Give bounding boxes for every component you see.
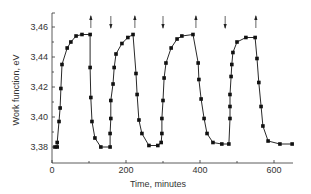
- data-point: [120, 42, 124, 46]
- data-point: [290, 142, 294, 146]
- data-point: [202, 117, 206, 121]
- data-point: [199, 97, 203, 101]
- data-point: [156, 144, 160, 148]
- data-point: [59, 87, 63, 91]
- data-point: [231, 51, 235, 55]
- data-point: [228, 105, 232, 109]
- data-point: [180, 34, 184, 38]
- work-function-chart: 02004006003,383,403,423,443,46 Time, min…: [0, 0, 311, 194]
- data-point: [278, 142, 282, 146]
- data-point: [109, 117, 113, 121]
- data-point: [229, 75, 233, 79]
- y-tick-label: 3,42: [30, 82, 48, 92]
- data-point: [266, 139, 270, 143]
- tick-labels: 02004006003,383,403,423,443,46: [30, 22, 281, 175]
- x-tick-label: 400: [192, 165, 207, 175]
- data-point: [255, 57, 259, 61]
- data-point: [196, 61, 200, 65]
- arrow-up-icon: [254, 15, 257, 28]
- data-point: [259, 105, 263, 109]
- data-point: [108, 145, 112, 149]
- switch-arrows: [89, 15, 257, 29]
- x-axis-title: Time, minutes: [130, 179, 187, 189]
- data-point: [162, 76, 166, 80]
- data-point: [58, 106, 62, 110]
- data-point: [111, 82, 115, 86]
- data-point: [126, 36, 130, 40]
- arrow-down-icon: [224, 16, 227, 29]
- data-point: [69, 40, 73, 44]
- data-point: [227, 142, 231, 146]
- data-point: [197, 78, 201, 82]
- data-point: [135, 93, 139, 97]
- arrow-up-icon: [133, 15, 136, 28]
- axes: [52, 13, 293, 163]
- data-point: [244, 36, 248, 40]
- y-tick-label: 3,44: [30, 52, 48, 62]
- data-point: [88, 66, 92, 70]
- y-axis-title: Work function, eV: [11, 55, 21, 126]
- data-point: [220, 142, 224, 146]
- data-point: [228, 117, 232, 121]
- data-point: [164, 61, 168, 65]
- data-point: [131, 33, 135, 37]
- data-markers: [53, 33, 294, 149]
- data-point: [191, 33, 195, 37]
- arrow-down-icon: [109, 16, 112, 29]
- data-point: [175, 37, 179, 41]
- data-point: [134, 72, 138, 76]
- data-point: [65, 46, 69, 50]
- data-point: [228, 93, 232, 97]
- arrow-up-icon: [89, 15, 92, 28]
- data-point: [108, 132, 112, 136]
- data-point: [161, 99, 165, 103]
- data-point: [257, 81, 261, 85]
- data-point: [112, 66, 116, 70]
- arrow-up-icon: [194, 15, 197, 28]
- data-point: [261, 124, 265, 128]
- data-point: [74, 34, 78, 38]
- data-point: [140, 132, 144, 136]
- data-point: [147, 144, 151, 148]
- data-point: [60, 63, 64, 67]
- data-point: [109, 99, 113, 103]
- data-point: [88, 33, 92, 37]
- data-point: [90, 120, 94, 124]
- data-point: [159, 141, 163, 145]
- data-point: [211, 141, 215, 145]
- y-tick-label: 3,40: [30, 112, 48, 122]
- x-tick-label: 0: [49, 165, 54, 175]
- data-point: [55, 141, 59, 145]
- data-point: [169, 46, 173, 50]
- data-point: [160, 117, 164, 121]
- y-tick-label: 3,38: [30, 142, 48, 152]
- x-tick-label: 600: [266, 165, 281, 175]
- data-point: [114, 52, 118, 56]
- y-tick-label: 3,46: [30, 22, 48, 32]
- x-tick-label: 200: [118, 165, 133, 175]
- data-point: [55, 145, 59, 149]
- data-point: [235, 40, 239, 44]
- data-point: [80, 33, 84, 37]
- data-point: [205, 132, 209, 136]
- data-point: [253, 36, 257, 40]
- data-point: [230, 63, 234, 67]
- arrow-down-icon: [161, 16, 164, 29]
- data-line: [55, 35, 292, 148]
- data-point: [89, 96, 93, 100]
- data-point: [93, 136, 97, 140]
- data-point: [99, 145, 103, 149]
- data-point: [137, 118, 141, 122]
- data-point: [160, 132, 164, 136]
- data-point: [57, 120, 61, 124]
